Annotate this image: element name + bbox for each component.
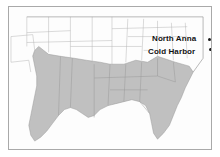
label-cold-harbor: Cold Harbor <box>148 47 195 56</box>
label-north-anna: North Anna <box>152 34 196 43</box>
marker-dot-north-anna <box>208 38 211 41</box>
map-canvas <box>9 7 211 149</box>
map-figure: North Anna Cold Harbor <box>0 0 220 157</box>
western-state-outlines <box>11 35 35 72</box>
map-frame: North Anna Cold Harbor <box>8 6 212 150</box>
marker-dot-cold-harbor <box>209 48 212 51</box>
